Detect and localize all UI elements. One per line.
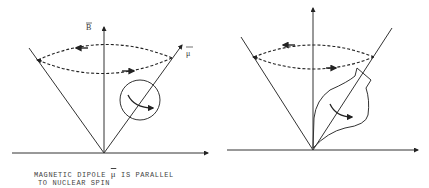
cone-left-edge [29,48,104,153]
dipole-vector [104,45,182,153]
caption-line-1: MAGNETIC DIPOLE μ IS PARALLEL [34,169,174,179]
precession-ellipse-bottom-right [254,57,374,69]
spin-arrow [128,95,153,108]
caption-line-2: TO NUCLEAR SPIN [38,179,110,187]
precession-ellipse-top [38,44,172,60]
cone-right-edge-right [313,28,392,150]
caption-suffix: IS PARALLEL [121,171,174,179]
right-panel [227,8,418,150]
left-panel: B μ [12,23,208,153]
spinning-nucleus [120,80,160,120]
mu-label: μ [186,49,190,58]
caption-mu-symbol: μ [111,169,116,179]
precession-diagrams: B μ [0,0,429,188]
cone-left-edge-right [241,37,313,150]
b-label: B [86,23,91,32]
precession-ellipse-top-right [254,45,374,57]
caption-prefix: MAGNETIC DIPOLE [34,171,106,179]
precession-ellipse-bottom [38,58,172,74]
